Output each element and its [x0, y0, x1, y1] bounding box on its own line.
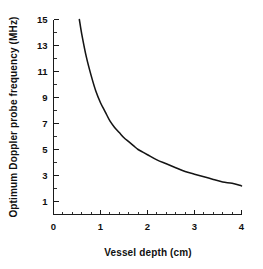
- x-tick-label: 3: [192, 221, 197, 232]
- x-axis-title: Vessel depth (cm): [104, 247, 192, 258]
- x-axis-tick-labels: 01234: [51, 221, 245, 232]
- x-tick-label: 4: [239, 221, 245, 232]
- y-tick-label: 3: [42, 170, 47, 181]
- y-tick-label: 1: [42, 196, 48, 207]
- x-tick-label: 2: [145, 221, 150, 232]
- y-tick-label: 13: [37, 40, 48, 51]
- y-axis-title: Optimum Doppler probe frequency (MHz): [8, 16, 19, 217]
- x-axis: 01234: [51, 210, 245, 232]
- data-series-group: [79, 20, 241, 186]
- y-axis: 13579111315: [37, 14, 59, 215]
- y-axis-tick-labels: 13579111315: [37, 14, 48, 207]
- y-tick-label: 5: [42, 144, 48, 155]
- data-curve-optimum-frequency: [79, 20, 241, 186]
- y-tick-label: 7: [42, 118, 47, 129]
- y-tick-label: 11: [37, 66, 48, 77]
- chart-plot-area: 13579111315 01234 Optimum Doppler probe …: [0, 0, 263, 269]
- chart-figure: 13579111315 01234 Optimum Doppler probe …: [0, 0, 263, 269]
- y-tick-label: 9: [42, 92, 47, 103]
- x-tick-label: 0: [51, 221, 56, 232]
- x-tick-label: 1: [98, 221, 104, 232]
- y-tick-label: 15: [37, 14, 48, 25]
